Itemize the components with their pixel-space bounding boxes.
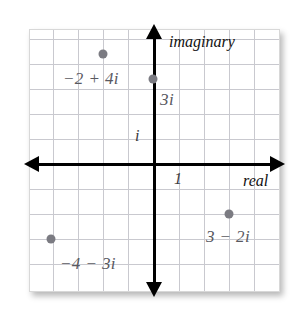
imaginary-axis-label: imaginary <box>169 33 235 51</box>
tick-label-one: 1 <box>174 170 182 188</box>
grid-line-vertical <box>128 30 129 291</box>
grid-line-vertical <box>254 30 255 291</box>
grid-line-vertical <box>179 30 180 291</box>
tick-label-i: i <box>135 127 139 145</box>
arrow-up-icon <box>146 24 162 39</box>
imaginary-axis <box>153 34 156 287</box>
data-point-minus4-minus-3i <box>47 235 56 244</box>
point-label-3i: 3i <box>160 90 174 110</box>
arrow-left-icon <box>24 156 39 172</box>
real-axis-label: real <box>243 172 268 190</box>
data-point-3i <box>149 75 158 84</box>
point-label-minus2-plus-4i: −2 + 4i <box>63 69 119 89</box>
grid-line-vertical <box>229 30 230 291</box>
arrow-down-icon <box>146 282 162 297</box>
data-point-minus2-plus-4i <box>99 50 108 59</box>
point-label-minus4-minus-3i: −4 − 3i <box>60 254 116 274</box>
figure-complex-plane: −2 + 4i 3i 3 − 2i −4 − 3i imaginary real… <box>0 0 300 327</box>
grid-line-vertical <box>204 30 205 291</box>
data-point-3-minus-2i <box>225 210 234 219</box>
point-label-3-minus-2i: 3 − 2i <box>206 227 250 247</box>
arrow-right-icon <box>270 156 285 172</box>
grid-line-vertical <box>53 30 54 291</box>
